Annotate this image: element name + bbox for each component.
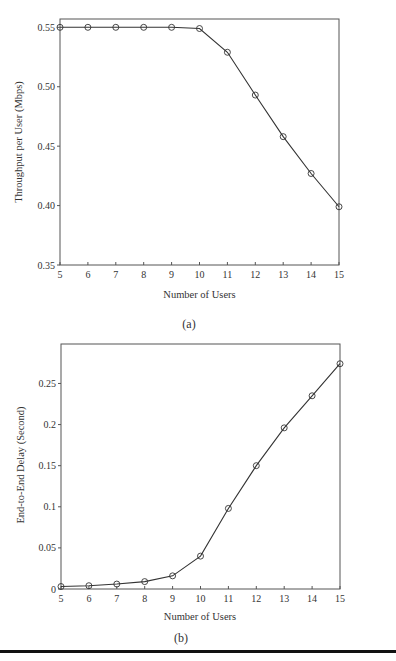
chart-b-y-tick-label: 0.05 <box>39 542 57 553</box>
chart-b-x-tick-label: 15 <box>335 593 345 604</box>
chart-a-x-tick-label: 11 <box>223 269 233 280</box>
chart-b-plot-frame <box>61 344 340 589</box>
chart-a-x-axis-label: Number of Users <box>163 289 235 300</box>
chart-a-y-axis-label: Throughput per User (Mbps) <box>13 81 25 203</box>
chart-b-x-axis-label: Number of Users <box>164 611 236 622</box>
chart-b-y-tick-label: 0 <box>51 584 56 595</box>
chart-a-caption: (a) <box>182 317 195 331</box>
bottom-rule <box>0 650 396 653</box>
figure: 56789101112131415 0.350.400.450.500.55 N… <box>0 0 396 661</box>
chart-b-y-axis-label: End-to-End Delay (Second) <box>15 406 27 524</box>
chart-b-x-tick-label: 8 <box>142 593 147 604</box>
chart-a-throughput: 56789101112131415 0.350.400.450.500.55 N… <box>13 19 344 331</box>
chart-a-series <box>57 24 342 209</box>
chart-a-series-line <box>60 27 339 206</box>
chart-b-x-tick-label: 13 <box>279 593 289 604</box>
chart-a-x-tick-label: 10 <box>195 269 205 280</box>
chart-b-x-tick-label: 14 <box>307 593 317 604</box>
chart-a-x-tick-label: 12 <box>250 269 260 280</box>
chart-a-x-tick-label: 9 <box>169 269 174 280</box>
chart-b-y-tick-label: 0.1 <box>44 501 57 512</box>
chart-b-x-tick-label: 7 <box>114 593 119 604</box>
chart-b-delay: 56789101112131415 00.050.10.150.20.25 Nu… <box>15 344 345 645</box>
chart-b-x-tick-label: 12 <box>251 593 261 604</box>
chart-b-y-tick-label: 0.25 <box>39 378 57 389</box>
chart-a-y-tick-label: 0.35 <box>38 260 56 271</box>
chart-a-y-tick-label: 0.45 <box>38 141 56 152</box>
chart-b-caption: (b) <box>174 631 188 645</box>
chart-a-x-tick-label: 6 <box>85 269 90 280</box>
chart-a-y-ticks: 0.350.400.450.500.55 <box>38 22 61 271</box>
chart-a-x-tick-label: 8 <box>141 269 146 280</box>
chart-a-x-tick-label: 14 <box>306 269 316 280</box>
chart-a-y-tick-label: 0.50 <box>38 81 56 92</box>
chart-b-y-ticks: 00.050.10.150.20.25 <box>39 378 62 595</box>
chart-b-x-tick-label: 10 <box>196 593 206 604</box>
chart-b-series <box>58 361 343 590</box>
chart-b-x-tick-label: 11 <box>224 593 234 604</box>
chart-a-x-tick-label: 13 <box>278 269 288 280</box>
chart-a-x-tick-label: 5 <box>58 269 63 280</box>
chart-a-y-tick-label: 0.55 <box>38 22 56 33</box>
chart-b-x-tick-label: 5 <box>59 593 64 604</box>
chart-b-x-tick-label: 6 <box>86 593 91 604</box>
chart-a-x-tick-label: 15 <box>334 269 344 280</box>
chart-a-y-tick-label: 0.40 <box>38 200 56 211</box>
chart-b-y-tick-label: 0.2 <box>44 419 57 430</box>
chart-b-y-tick-label: 0.15 <box>39 460 57 471</box>
chart-b-x-tick-label: 9 <box>170 593 175 604</box>
chart-a-plot-frame <box>60 19 339 265</box>
chart-a-x-tick-label: 7 <box>113 269 118 280</box>
